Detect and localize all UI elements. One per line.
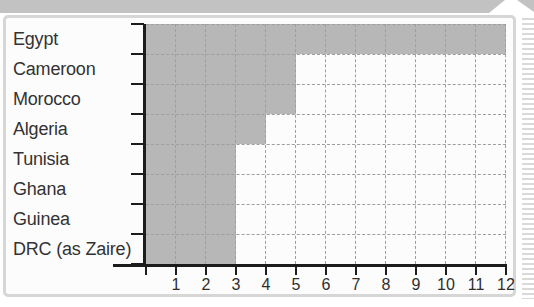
x-tick-label-6: 6 [311, 276, 341, 294]
x-tick-12 [505, 264, 507, 275]
page-header-band [0, 0, 534, 13]
x-tick-label-2: 2 [191, 276, 221, 294]
y-tick-0 [131, 23, 144, 25]
bar-drc-as-zaire [146, 234, 236, 264]
x-tick-0 [145, 264, 147, 275]
y-axis-line [143, 24, 146, 266]
x-tick-label-8: 8 [371, 276, 401, 294]
gridline-h-6 [146, 204, 506, 205]
gridline-h-2 [146, 84, 506, 85]
category-label-algeria: Algeria [13, 114, 143, 144]
x-tick-8 [385, 264, 387, 275]
category-label-morocco: Morocco [13, 84, 143, 114]
gridline-h-4 [146, 144, 506, 145]
category-labels: EgyptCameroonMoroccoAlgeriaTunisiaGhanaG… [13, 24, 143, 264]
y-tick-3 [131, 113, 144, 115]
y-tick-2 [131, 83, 144, 85]
x-tick-2 [205, 264, 207, 275]
x-tick-9 [415, 264, 417, 275]
y-tick-7 [131, 233, 144, 235]
x-tick-5 [295, 264, 297, 275]
gridline-h-1 [146, 54, 506, 55]
y-tick-5 [131, 173, 144, 175]
x-tick-label-5: 5 [281, 276, 311, 294]
category-label-tunisia: Tunisia [13, 144, 143, 174]
x-axis-line [113, 264, 506, 267]
x-tick-label-7: 7 [341, 276, 371, 294]
gridline-h-7 [146, 234, 506, 235]
page-edge-texture [522, 18, 534, 299]
x-tick-1 [175, 264, 177, 275]
y-tick-4 [131, 143, 144, 145]
gridline-h-5 [146, 174, 506, 175]
category-label-egypt: Egypt [13, 24, 143, 54]
x-tick-label-11: 11 [461, 276, 491, 294]
x-tick-label-12: 12 [491, 276, 521, 294]
x-tick-10 [445, 264, 447, 275]
x-tick-label-10: 10 [431, 276, 461, 294]
bar-algeria [146, 114, 266, 144]
gridline-h-3 [146, 114, 506, 115]
x-tick-label-1: 1 [161, 276, 191, 294]
category-label-drc-as-zaire: DRC (as Zaire) [13, 234, 143, 264]
category-label-cameroon: Cameroon [13, 54, 143, 84]
x-tick-label-4: 4 [251, 276, 281, 294]
bar-ghana [146, 174, 236, 204]
bar-morocco [146, 84, 296, 114]
y-tick-8 [131, 263, 144, 265]
x-tick-3 [235, 264, 237, 275]
y-tick-6 [131, 203, 144, 205]
y-tick-1 [131, 53, 144, 55]
bar-guinea [146, 204, 236, 234]
x-tick-6 [325, 264, 327, 275]
x-tick-7 [355, 264, 357, 275]
category-label-ghana: Ghana [13, 174, 143, 204]
page-corner-fold [517, 0, 534, 12]
gridline-h-0 [146, 24, 506, 25]
x-tick-4 [265, 264, 267, 275]
x-tick-11 [475, 264, 477, 275]
x-tick-label-3: 3 [221, 276, 251, 294]
bar-cameroon [146, 54, 296, 84]
bar-egypt [146, 24, 506, 54]
plot-area [146, 24, 506, 264]
x-tick-label-9: 9 [401, 276, 431, 294]
scanned-page: EgyptCameroonMoroccoAlgeriaTunisiaGhanaG… [0, 0, 534, 307]
bar-tunisia [146, 144, 236, 174]
category-label-guinea: Guinea [13, 204, 143, 234]
